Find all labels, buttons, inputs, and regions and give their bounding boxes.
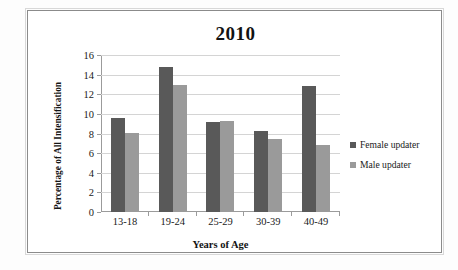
y-tick-label: 10	[84, 108, 95, 119]
legend-swatch-icon	[350, 142, 356, 148]
y-tick-label: 8	[89, 128, 94, 139]
bar-group	[244, 55, 292, 212]
y-axis-title: Percentage of All Intensification	[53, 61, 63, 231]
chart-legend: Female updaterMale updater	[350, 139, 419, 179]
x-tick-label: 13-18	[101, 216, 149, 227]
legend-label: Female updater	[360, 139, 419, 150]
x-axis-title: Years of Age	[101, 239, 340, 250]
bar-female	[206, 122, 220, 212]
legend-swatch-icon	[350, 162, 356, 168]
y-tick-label: 6	[89, 148, 94, 159]
bar-male	[220, 121, 234, 212]
bar-group	[292, 55, 340, 212]
bar-male	[268, 139, 282, 212]
bar-male	[316, 145, 330, 212]
chart-page: 2010 Percentage of All Intensification 0…	[0, 0, 458, 270]
y-tick-label: 14	[84, 69, 95, 80]
y-tick-label: 2	[89, 187, 94, 198]
chart-frame: 2010 Percentage of All Intensification 0…	[27, 10, 442, 253]
x-tick-label: 19-24	[149, 216, 197, 227]
x-tick-label: 40-49	[292, 216, 340, 227]
gridline	[101, 212, 340, 213]
chart-title: 2010	[28, 23, 443, 45]
bar-group	[149, 55, 197, 212]
x-axis-tick-labels: 13-1819-2425-2930-3940-49	[101, 216, 340, 227]
bar-male	[125, 133, 139, 212]
bar-group	[101, 55, 149, 212]
y-tick-label: 12	[84, 89, 95, 100]
bar-female	[111, 118, 125, 212]
bar-female	[302, 86, 316, 212]
y-tick-mark	[97, 212, 101, 213]
y-tick-label: 4	[89, 167, 94, 178]
legend-item-female-updater: Female updater	[350, 139, 419, 150]
legend-item-male-updater: Male updater	[350, 159, 419, 170]
bar-groups	[101, 55, 340, 212]
legend-label: Male updater	[360, 159, 411, 170]
bar-female	[254, 131, 268, 212]
bar-male	[173, 85, 187, 212]
bar-female	[159, 67, 173, 212]
x-tick-label: 30-39	[244, 216, 292, 227]
x-tick-label: 25-29	[197, 216, 245, 227]
y-tick-label: 16	[84, 50, 95, 61]
bar-group	[197, 55, 245, 212]
plot-area: 0246810121416	[101, 55, 340, 212]
y-tick-label: 0	[89, 207, 94, 218]
